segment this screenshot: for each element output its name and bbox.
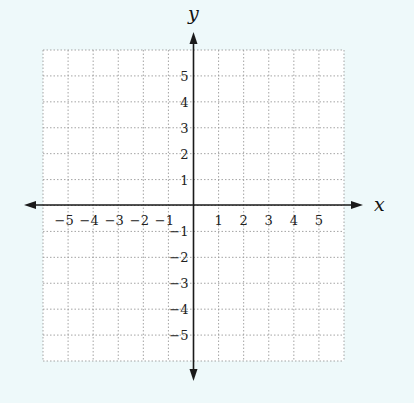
x-tick-label: −2	[130, 213, 149, 228]
y-axis-label: y	[187, 2, 199, 24]
y-tick-label: −4	[169, 302, 188, 317]
y-axis-down-arrow-icon	[190, 369, 198, 381]
y-tick-label: 3	[180, 121, 188, 136]
x-tick-label: −4	[80, 213, 99, 228]
y-tick-label: −5	[169, 328, 188, 343]
y-tick-label: 1	[180, 173, 188, 188]
x-axis-right-arrow-icon	[351, 201, 363, 209]
y-tick-label: −3	[169, 276, 188, 291]
y-tick-label: 5	[180, 69, 188, 84]
x-tick-label: −5	[54, 213, 73, 228]
x-tick-label: 2	[240, 213, 248, 228]
x-tick-label: 5	[315, 213, 323, 228]
x-tick-label: 3	[265, 213, 273, 228]
x-tick-label: −3	[105, 213, 124, 228]
x-tick-label: 1	[214, 213, 222, 228]
coordinate-grid: x y −5−4−3−2−112345 54321−1−2−3−4−5	[0, 0, 414, 403]
y-tick-label: 4	[180, 95, 188, 110]
y-tick-label: −2	[169, 250, 188, 265]
y-tick-label: 2	[180, 147, 188, 162]
x-axis-label: x	[374, 193, 385, 215]
y-axis-up-arrow-icon	[190, 32, 198, 44]
x-tick-label: 4	[290, 213, 298, 228]
x-axis-left-arrow-icon	[24, 201, 36, 209]
coordinate-plane: x y −5−4−3−2−112345 54321−1−2−3−4−5	[0, 0, 414, 403]
y-tick-label: −1	[169, 224, 188, 239]
